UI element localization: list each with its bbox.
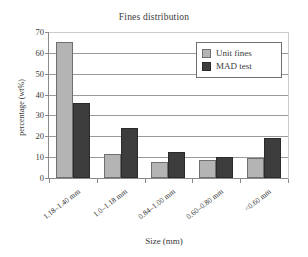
x-axis-tick-label: 1.18–1.40 mm bbox=[27, 187, 81, 232]
bar-group bbox=[97, 32, 145, 178]
y-axis-tick-label: 50 bbox=[36, 69, 45, 78]
y-axis-tick-label: 20 bbox=[36, 132, 45, 141]
legend-label-unit-fines: Unit fines bbox=[216, 49, 252, 58]
x-axis-tick-mark bbox=[192, 178, 193, 183]
bar-mad-test bbox=[216, 157, 233, 178]
legend-swatch-icon-unit-fines bbox=[202, 49, 211, 58]
bar-mad-test bbox=[121, 128, 138, 178]
y-axis-tick-label: 40 bbox=[36, 90, 45, 99]
bar-unit-fines bbox=[56, 42, 73, 178]
x-axis-title: Size (mm) bbox=[40, 236, 288, 246]
x-axis-tick-label: 0.60–0.80 mm bbox=[170, 187, 224, 232]
legend-swatch-icon-mad-test bbox=[202, 62, 211, 71]
bar-mad-test bbox=[168, 152, 185, 178]
x-axis-tick-mark bbox=[97, 178, 98, 183]
bar-mad-test bbox=[264, 138, 281, 178]
bar-group bbox=[145, 32, 193, 178]
x-axis-tick-mark bbox=[288, 178, 289, 183]
bar-chart: Fines distribution percentage (wt%) 0102… bbox=[0, 0, 308, 257]
chart-title: Fines distribution bbox=[0, 12, 308, 22]
bar-unit-fines bbox=[247, 158, 264, 178]
x-axis-tick-mark bbox=[49, 178, 50, 183]
legend-item-unit-fines: Unit fines bbox=[202, 47, 276, 60]
x-axis-tick-mark bbox=[145, 178, 146, 183]
y-axis-tick-label: 0 bbox=[40, 174, 44, 183]
x-axis-tick-label: 0.84–1.00 mm bbox=[123, 187, 177, 232]
y-axis-tick-label: 70 bbox=[36, 28, 45, 37]
x-axis-tick-label: <0.60 mm bbox=[218, 187, 272, 232]
legend-item-mad-test: MAD test bbox=[202, 60, 276, 73]
chart-legend: Unit fines MAD test bbox=[196, 42, 282, 78]
y-axis-tick-label: 60 bbox=[36, 49, 45, 58]
y-axis-tick-label: 10 bbox=[36, 153, 45, 162]
bar-unit-fines bbox=[151, 162, 168, 178]
bar-group bbox=[49, 32, 97, 178]
y-axis-title: percentage (wt%) bbox=[17, 53, 26, 163]
bar-unit-fines bbox=[104, 154, 121, 178]
x-axis-tick-mark bbox=[240, 178, 241, 183]
bar-unit-fines bbox=[199, 160, 216, 178]
y-axis-tick-label: 30 bbox=[36, 111, 45, 120]
x-axis-tick-label: 1.0–1.18 mm bbox=[75, 187, 129, 232]
legend-label-mad-test: MAD test bbox=[216, 62, 252, 71]
bar-mad-test bbox=[73, 103, 90, 178]
